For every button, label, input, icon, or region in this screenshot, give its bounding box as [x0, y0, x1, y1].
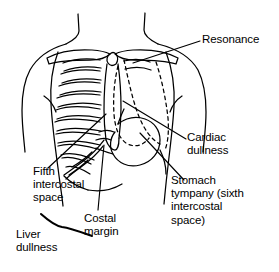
sternum-right-border: [118, 64, 121, 138]
xiphoid: [106, 138, 119, 150]
left-lung-border-dashed: [124, 60, 160, 144]
costal-margin-leader: [98, 145, 104, 210]
right-axilla-crease: [170, 96, 182, 112]
sternum: [104, 64, 107, 140]
thorax-percussion-figure: Resonance Cardiac dullness Stomach tympa…: [0, 0, 279, 272]
right-lung-border-dashed: [156, 62, 168, 150]
left-shoulder-outline: [22, 44, 66, 152]
manubrium: [107, 53, 118, 66]
label-stomach-tympany: Stomach tympany (sixth intercostal space…: [171, 174, 244, 227]
stomach-fold-a: [99, 131, 114, 133]
cardiac-dullness-leader: [123, 101, 186, 139]
stomach: [111, 118, 160, 166]
label-cardiac-dullness: Cardiac dullness: [187, 131, 228, 157]
label-fifth-intercostal-space: Fifth intercostal space: [33, 165, 84, 205]
neck-outline-left: [66, 14, 79, 44]
label-costal-margin: Costal margin: [84, 212, 119, 238]
neck-outline-right: [144, 13, 158, 44]
label-resonance: Resonance: [202, 33, 259, 46]
left-axilla-crease: [44, 96, 56, 112]
stomach-tympany-leader: [140, 133, 184, 180]
label-liver-dullness: Liver dullness: [16, 228, 57, 254]
abdomen-contour-right: [160, 150, 166, 174]
epigastric-contour: [88, 184, 122, 191]
fifth-intercostal-leader: [48, 114, 106, 168]
